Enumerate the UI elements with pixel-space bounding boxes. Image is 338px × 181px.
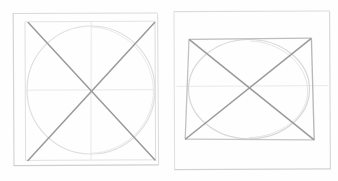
left-frame-top-edge bbox=[13, 13, 158, 14]
left-square-left-edge bbox=[25, 22, 26, 160]
right-frame-left-edge bbox=[174, 12, 175, 170]
right-frame-bottom-edge bbox=[174, 169, 330, 170]
sketch-sheet bbox=[0, 0, 338, 181]
right-frame-top-edge bbox=[174, 11, 330, 12]
left-square-top-edge bbox=[25, 21, 156, 22]
left-frame-bottom-edge bbox=[14, 165, 159, 166]
left-frame-left-edge bbox=[13, 14, 14, 166]
sketch-canvas bbox=[0, 0, 338, 181]
right-quad-bottom-edge bbox=[185, 139, 314, 140]
left-square-bottom-edge bbox=[25, 160, 155, 161]
